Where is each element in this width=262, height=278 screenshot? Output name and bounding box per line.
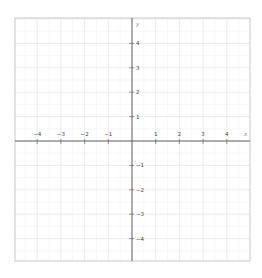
x-tick-label: 4 — [225, 131, 229, 137]
y-tick-label: −3 — [136, 211, 145, 217]
x-tick-label: −1 — [104, 131, 112, 137]
x-tick-label: 3 — [201, 131, 205, 137]
y-tick-label: −2 — [136, 187, 144, 193]
y-tick-label: −4 — [136, 236, 145, 242]
y-tick-label: 4 — [136, 40, 140, 46]
x-tick-label: 2 — [178, 131, 182, 137]
y-axis-label: y — [135, 21, 140, 28]
y-tick-label: 3 — [136, 65, 140, 71]
x-tick-label: −2 — [81, 131, 89, 137]
y-tick-label: 1 — [136, 114, 140, 120]
y-tick-label: −1 — [136, 162, 144, 168]
minor-grid — [15, 18, 250, 261]
x-tick-label: −4 — [33, 131, 42, 137]
x-axis-label: x — [243, 131, 248, 137]
coordinate-plane: −4−3−2−11234 4321−1−2−3−4 x y — [0, 0, 262, 278]
x-tick-label: 1 — [154, 131, 158, 137]
x-tick-label: −3 — [57, 131, 66, 137]
y-tick-label: 2 — [136, 89, 140, 95]
x-axis-ticks: −4−3−2−11234 — [33, 131, 229, 144]
